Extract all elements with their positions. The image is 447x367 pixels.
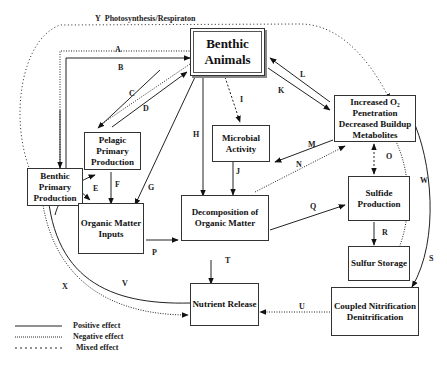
box-microbial-activity: Microbial Activity [212,125,270,162]
label-t: T [225,256,230,265]
label-v: V [122,279,128,288]
label-o: O [386,152,392,161]
arrow-letter-y: Y [95,14,101,23]
box-benthic-primary-production: Benthic Primary Production [27,168,83,206]
label-w: W [420,176,428,185]
label-l: L [300,70,305,79]
label-d: D [143,104,149,113]
photosynthesis-respiration-label: Y Photosynthesis/Respiraton [95,14,195,23]
box-o2-penetration: Increased O₂ Penetration Decreased Build… [334,95,416,142]
label-x: X [62,282,68,291]
label-m: M [308,140,316,149]
box-organic-matter-inputs: Organic Matter Inputs [78,203,144,254]
box-sulfur-storage: Sulfur Storage [348,246,410,281]
box-pelagic-primary-production: Pelagic Primary Production [84,132,141,170]
box-nutrient-release: Nutrient Release [190,283,259,326]
label-c: C [129,89,135,98]
label-u: U [299,302,305,311]
legend-positive: Positive effect [73,321,120,330]
label-n: N [296,160,302,169]
legend-negative: Negative effect [73,332,123,341]
label-j: J [236,167,240,176]
label-k: K [278,86,284,95]
label-f: F [115,180,120,189]
label-g: G [148,183,154,192]
arrow-y-text: Photosynthesis/Respiraton [105,14,196,23]
box-sulfide-production: Sulfide Production [348,176,410,221]
box-coupled-nitrification: Coupled Nitrification Denitrification [331,287,419,336]
label-b: B [118,63,123,72]
label-s: S [429,254,433,263]
label-r: R [382,228,388,237]
label-a: A [115,45,121,54]
label-e: E [93,184,98,193]
label-h: H [193,130,199,139]
label-i: I [240,95,243,104]
box-decomposition: Decomposition of Organic Matter [181,195,269,241]
legend-mixed: Mixed effect [76,343,118,352]
box-benthic-animals: Benthic Animals [190,28,265,76]
label-q: Q [310,202,316,211]
label-p: P [152,248,157,257]
